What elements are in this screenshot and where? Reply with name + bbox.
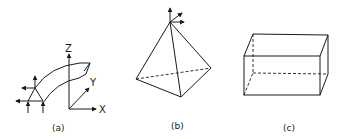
axis-y-label: Y — [89, 77, 97, 88]
axis-x-label: X — [99, 104, 106, 115]
figure-b-tetrahedron: (b) — [136, 8, 211, 131]
figure-c-box: (c) — [244, 34, 328, 133]
coordinate-axes-icon: Z X Y — [65, 43, 106, 115]
figure-a-curved-beam: Z X Y (a) — [16, 43, 106, 133]
element-diagram: Z X Y (a) (b) (c) — [0, 0, 343, 139]
apex-force-arrows-icon — [170, 8, 184, 22]
axis-z-label: Z — [65, 43, 72, 54]
caption-b: (b) — [171, 121, 184, 131]
caption-c: (c) — [283, 123, 295, 133]
caption-a: (a) — [52, 123, 65, 133]
